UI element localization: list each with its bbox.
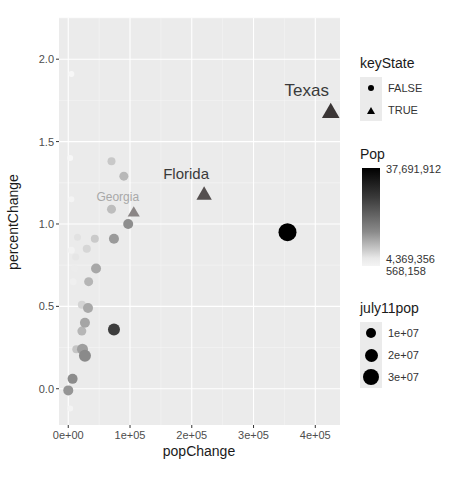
x-tick-label: 1e+05 [115, 429, 146, 441]
circle-point [107, 157, 115, 165]
circle-point [71, 265, 78, 272]
state-label: Texas [285, 81, 329, 100]
circle-point [70, 278, 77, 285]
circle-point [91, 235, 99, 243]
circle-icon [363, 369, 379, 385]
colorbar-mid-label: 4,369,356 [386, 253, 435, 265]
circle-icon [368, 85, 374, 91]
legend-pop-title: Pop [360, 146, 385, 162]
circle-point [123, 219, 133, 229]
legend-item-3e07: 3e+07 [360, 366, 419, 388]
circle-point [67, 155, 73, 161]
y-tick-label: 2.0 [39, 53, 54, 65]
circle-point [108, 323, 120, 335]
legend-label-3e07: 3e+07 [388, 371, 419, 383]
circle-point [107, 205, 116, 214]
legend-label-false: FALSE [388, 82, 422, 94]
legend-label-2e07: 2e+07 [388, 349, 419, 361]
triangle-icon [367, 107, 375, 114]
legend-keystate: keyState FALSE TRUE [360, 55, 422, 121]
circle-point [279, 223, 297, 241]
legend-item-2e07: 2e+07 [360, 344, 419, 366]
colorbar-min-label: 568,158 [386, 265, 426, 277]
legend-item-1e07: 1e+07 [360, 322, 419, 344]
legend-keystate-title: keyState [360, 55, 422, 71]
circle-point [109, 234, 119, 244]
plot-panel [59, 18, 340, 425]
state-label: Florida [163, 165, 210, 182]
y-tick-label: 0.5 [39, 300, 54, 312]
legend-july11pop-title: july11pop [360, 300, 419, 316]
x-tick-label: 0e+00 [53, 429, 84, 441]
x-axis-title: popChange [163, 443, 236, 459]
circle-point [79, 350, 91, 362]
x-axis: 0e+001e+052e+053e+054e+05 [53, 425, 331, 441]
circle-point [68, 374, 78, 384]
circle-point [63, 385, 73, 395]
x-tick-label: 4e+05 [300, 429, 331, 441]
circle-point [91, 263, 101, 273]
legend-label-1e07: 1e+07 [388, 327, 419, 339]
state-label: Georgia [96, 190, 139, 204]
colorbar-max-label: 37,691,912 [386, 163, 441, 175]
y-axis-title: percentChange [5, 174, 21, 270]
pop-colorbar [362, 168, 380, 266]
circle-point [68, 196, 74, 202]
legend-pop: Pop [360, 146, 385, 162]
circle-point [68, 247, 75, 254]
circle-point [72, 253, 79, 260]
x-tick-label: 3e+05 [238, 429, 269, 441]
circle-point [67, 406, 73, 412]
circle-icon [366, 328, 376, 338]
y-tick-label: 1.0 [39, 218, 54, 230]
circle-point [77, 327, 86, 336]
legend-label-true: TRUE [388, 104, 418, 116]
x-tick-label: 2e+05 [176, 429, 207, 441]
circle-point [119, 172, 128, 181]
circle-point [83, 245, 91, 253]
legend-july11pop: july11pop 1e+07 2e+07 3e+07 [360, 300, 419, 388]
circle-point [84, 277, 93, 286]
circle-point [80, 318, 90, 328]
circle-icon [365, 349, 378, 362]
circle-point [68, 71, 74, 77]
y-axis: 0.00.51.01.52.0 [39, 53, 59, 395]
legend-item-false: FALSE [360, 77, 422, 99]
circle-point [74, 234, 81, 241]
legend-item-true: TRUE [360, 99, 422, 121]
y-tick-label: 1.5 [39, 136, 54, 148]
y-tick-label: 0.0 [39, 383, 54, 395]
circle-point [83, 303, 93, 313]
